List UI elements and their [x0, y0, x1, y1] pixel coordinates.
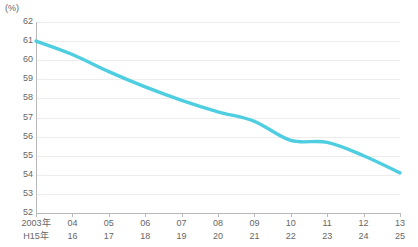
line-chart: (%) 6261605958575655545352 2003年H15年0416… [0, 0, 418, 247]
x-axis-tick [327, 213, 328, 217]
x-label-year: 04 [67, 218, 77, 228]
x-axis-tick-label: 1325 [370, 218, 418, 242]
x-label-year: 06 [140, 218, 150, 228]
x-label-year: 05 [104, 218, 114, 228]
x-axis-tick [109, 213, 110, 217]
x-axis-tick [218, 213, 219, 217]
x-axis-tick [145, 213, 146, 217]
x-axis-tick [364, 213, 365, 217]
series-line-path [36, 41, 400, 173]
x-label-year: 12 [359, 218, 369, 228]
series-line-layer [0, 0, 418, 247]
x-axis-tick [254, 213, 255, 217]
x-label-year: 13 [395, 218, 405, 228]
x-axis-tick [291, 213, 292, 217]
x-label-year: 09 [249, 218, 259, 228]
x-label-era: 25 [370, 231, 418, 242]
x-label-year: 10 [286, 218, 296, 228]
x-axis-tick [36, 213, 37, 217]
x-axis-tick [72, 213, 73, 217]
x-label-year: 08 [213, 218, 223, 228]
x-axis-tick [400, 213, 401, 217]
x-axis-tick [182, 213, 183, 217]
x-label-year: 11 [323, 218, 332, 228]
x-label-year: 07 [177, 218, 187, 228]
